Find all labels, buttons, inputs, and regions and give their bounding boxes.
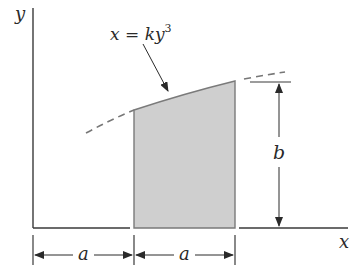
y-axis-label: y — [14, 3, 26, 24]
a-right-dimension-label: a — [179, 243, 190, 264]
diagram-canvas: y x x = ky3 b a a — [0, 0, 356, 278]
curve-equation: x = ky3 — [110, 22, 172, 44]
dashed-curve-right — [244, 72, 285, 79]
b-dimension-label: b — [273, 141, 285, 163]
curve-pointer-arrow — [143, 44, 168, 91]
a-left-dimension-label: a — [78, 243, 89, 264]
shaded-area — [134, 81, 235, 228]
curve-equation-base: x = ky — [110, 24, 165, 44]
x-axis-label: x — [339, 231, 349, 252]
dashed-curve-left — [86, 110, 134, 133]
curve-equation-exponent: 3 — [165, 22, 172, 35]
